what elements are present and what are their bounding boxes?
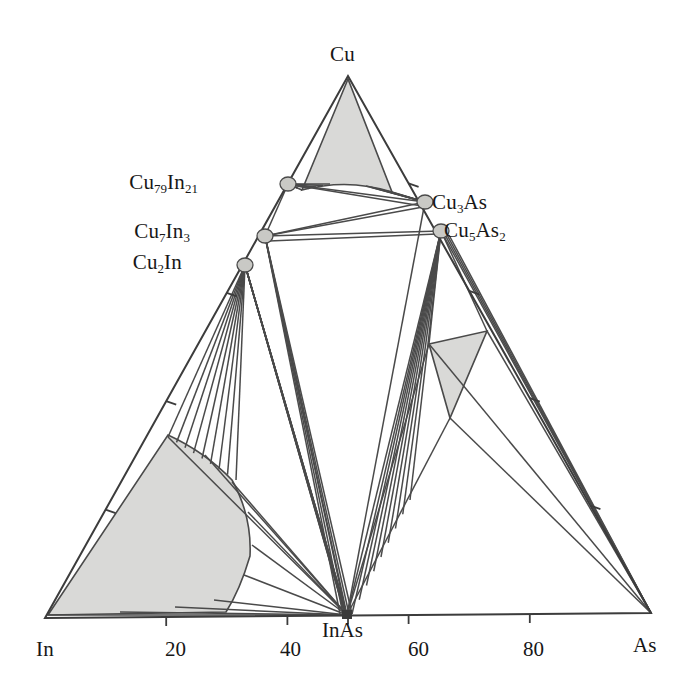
node-cu7in3 xyxy=(257,229,273,243)
compound-label-cu79in21: Cu79In21 xyxy=(0,170,198,197)
tie-line xyxy=(347,344,429,615)
corner-label-cu: Cu xyxy=(330,42,355,67)
tie-line xyxy=(347,231,441,615)
node-cu79in21 xyxy=(280,177,296,191)
compound-label-cu2in: Cu2In xyxy=(0,250,182,277)
tick-label-inas: InAs xyxy=(322,618,363,643)
node-cu2in xyxy=(237,258,253,272)
axis-tick xyxy=(106,510,116,513)
compound-label-cu5as2: Cu5As2 xyxy=(444,218,506,245)
corner-label-as: As xyxy=(633,633,657,658)
phase-diagram-canvas xyxy=(0,0,696,682)
compound-label-cu3as: Cu3As xyxy=(432,190,487,217)
tie-line xyxy=(450,418,651,613)
tie-line xyxy=(265,236,352,614)
compound-label-cu7in3: Cu7In3 xyxy=(0,219,190,246)
tie-line xyxy=(211,265,246,464)
tick-label-20: 20 xyxy=(165,637,186,662)
tie-line xyxy=(265,184,288,236)
tick-label-80: 80 xyxy=(523,637,544,662)
node-cu3as xyxy=(417,195,433,209)
tick-label-60: 60 xyxy=(408,637,429,662)
ternary-diagram-figure: Cu In As Cu79In21Cu7In3Cu2InCu3AsCu5As2 … xyxy=(0,0,696,682)
tie-line xyxy=(185,265,245,448)
tie-line xyxy=(449,235,651,613)
tie-line xyxy=(429,344,651,613)
tick-label-40: 40 xyxy=(280,637,301,662)
axis-tick xyxy=(166,401,176,405)
shade-as-three-phase xyxy=(429,331,487,418)
corner-label-in: In xyxy=(36,637,54,662)
tie-line xyxy=(388,231,441,543)
